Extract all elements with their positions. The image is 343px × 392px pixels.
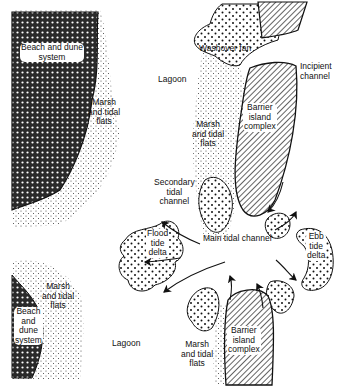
label-marsh-left-bottom: Marsh and tidal flats [42,282,74,311]
coastal-diagram: Beach and dune system Marsh and tidal fl… [0,0,343,392]
label-lagoon-bottom: Lagoon [112,339,140,349]
label-washover-fan: Washover fan [199,44,251,54]
label-marsh-center-bottom: Marsh and tidal flats [181,340,213,369]
label-lagoon-top: Lagoon [158,75,186,85]
label-marsh-left-top: Marsh and tidal flats [88,98,120,127]
label-incipient-channel: Incipient channel [300,62,332,81]
label-marsh-center-top: Marsh and tidal flats [192,120,224,149]
label-beach-dune-top: Beach and dune system [20,43,84,62]
label-barrier-bottom: Barrier island complex [227,326,261,355]
label-barrier-top: Barrier island complex [243,103,277,132]
label-flood-tide-delta: Flood tide delta [146,229,169,258]
label-secondary-channel: Secondary tidal channel [154,178,195,207]
label-ebb-tide-delta: Ebb tide delta [306,232,326,261]
label-main-tidal-channel: Main tidal channel [203,234,272,244]
label-beach-dune-bottom: Beach and dune system [14,307,43,345]
